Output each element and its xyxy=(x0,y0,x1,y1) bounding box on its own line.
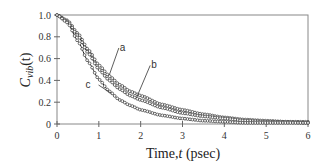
y-tick-label: 0.8 xyxy=(39,31,52,42)
x-tick-label: 2 xyxy=(138,130,143,141)
y-tick-label: 1.0 xyxy=(39,10,52,21)
data-point-marker xyxy=(78,42,81,45)
data-point-marker xyxy=(83,54,86,57)
data-point-marker xyxy=(78,36,81,39)
data-point-marker xyxy=(66,21,69,24)
data-point-marker xyxy=(76,39,79,42)
data-point-marker xyxy=(101,71,104,74)
data-point-marker xyxy=(73,35,76,38)
data-point-marker xyxy=(86,59,89,62)
data-point-marker xyxy=(113,79,116,82)
x-tick-label: 4 xyxy=(222,130,227,141)
y-tick-label: 0.2 xyxy=(39,97,52,108)
data-point-marker xyxy=(123,87,126,90)
data-point-marker xyxy=(103,74,106,77)
data-point-marker xyxy=(116,86,119,89)
curve-label-b: b xyxy=(151,59,157,70)
x-tick-label: 0 xyxy=(55,130,60,141)
data-point-marker xyxy=(68,24,71,27)
y-axis-title: Cvib(t) xyxy=(18,52,35,87)
data-point-marker xyxy=(111,81,114,84)
data-point-marker xyxy=(113,84,116,87)
y-tick-label: 0 xyxy=(46,119,51,130)
data-point-marker xyxy=(101,81,104,84)
data-point-marker xyxy=(88,53,91,56)
data-point-marker xyxy=(108,75,111,78)
data-point-marker xyxy=(98,79,101,82)
data-point-marker xyxy=(96,66,99,69)
data-point-marker xyxy=(123,91,126,94)
data-point-marker xyxy=(86,50,89,53)
x-tick-label: 3 xyxy=(180,130,185,141)
data-point-marker xyxy=(93,71,96,74)
data-point-marker xyxy=(81,48,84,51)
y-tick-label: 0.4 xyxy=(39,75,52,86)
data-point-marker xyxy=(98,69,101,72)
curve-label-c: c xyxy=(86,79,91,90)
data-point-marker xyxy=(91,57,94,60)
data-point-marker xyxy=(121,85,124,88)
data-point-marker xyxy=(116,97,119,100)
data-point-marker xyxy=(103,85,106,88)
data-point-marker xyxy=(111,77,114,80)
data-point-marker xyxy=(61,17,64,20)
data-point-marker xyxy=(58,15,61,18)
data-point-marker xyxy=(98,64,101,67)
data-point-marker xyxy=(88,62,91,65)
data-point-marker xyxy=(113,95,116,98)
x-tick-label: 5 xyxy=(264,130,269,141)
data-point-marker xyxy=(116,82,119,85)
data-point-marker xyxy=(307,122,310,125)
x-axis-title: Time,t (psec) xyxy=(146,146,220,162)
data-point-marker xyxy=(91,66,94,69)
x-tick-label: 1 xyxy=(96,130,101,141)
plot-frame xyxy=(57,15,308,124)
x-tick-label: 6 xyxy=(306,130,311,141)
data-point-marker xyxy=(93,62,96,65)
y-tick-label: 0.6 xyxy=(39,53,52,64)
curve-label-a: a xyxy=(120,42,126,53)
data-point-marker xyxy=(71,29,74,32)
decay-chart: 00.20.40.60.81.0 0123456 abc Cvib(t) Tim… xyxy=(0,0,325,168)
data-point-marker xyxy=(106,77,109,80)
data-point-marker xyxy=(108,79,111,82)
data-point-marker xyxy=(96,76,99,79)
